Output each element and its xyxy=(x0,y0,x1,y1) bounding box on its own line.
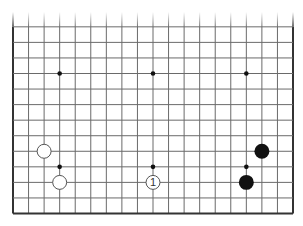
grid-line-continuation xyxy=(246,12,247,27)
star-point xyxy=(57,71,62,76)
grid-line-continuation xyxy=(90,12,91,27)
grid-line-continuation xyxy=(75,12,76,27)
grid-line-continuation xyxy=(121,12,122,27)
grid-line-continuation xyxy=(28,12,29,27)
white-stone[interactable]: 1 xyxy=(146,175,160,189)
grid-line-continuation xyxy=(168,12,169,27)
grid-line-continuation xyxy=(277,12,278,27)
grid-line-continuation xyxy=(292,12,294,27)
star-point xyxy=(57,165,62,170)
white-stone[interactable] xyxy=(37,144,51,158)
grid-line-continuation xyxy=(199,12,200,27)
black-stone[interactable] xyxy=(239,175,254,190)
go-board[interactable]: 1 xyxy=(0,0,303,226)
star-point xyxy=(151,71,156,76)
grid-line-continuation xyxy=(230,12,231,27)
grid-line-continuation xyxy=(261,12,262,27)
black-stone-disc xyxy=(254,144,269,159)
white-stone[interactable] xyxy=(53,175,67,189)
grid-line-continuation xyxy=(44,12,45,27)
star-point xyxy=(151,165,156,170)
grid-line-continuation xyxy=(59,12,60,27)
grid-line-continuation xyxy=(215,12,216,27)
white-stone-disc xyxy=(37,144,51,158)
grid-line-continuation xyxy=(137,12,138,27)
white-stone-disc xyxy=(53,175,67,189)
move-number-label: 1 xyxy=(150,176,156,188)
grid-line-continuation xyxy=(184,12,185,27)
grid-line-continuation xyxy=(153,12,154,27)
grid-line-continuation xyxy=(106,12,107,27)
star-point xyxy=(244,71,249,76)
black-stone-disc xyxy=(239,175,254,190)
black-stone[interactable] xyxy=(254,144,269,159)
star-point xyxy=(244,165,249,170)
grid-line-continuation xyxy=(12,12,14,27)
